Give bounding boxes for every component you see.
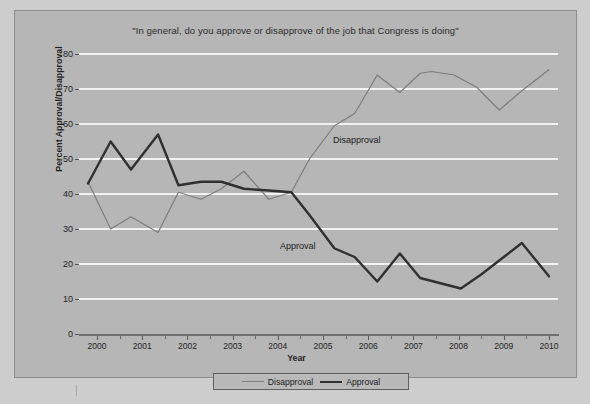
x-tick-mark-minor bbox=[436, 336, 437, 339]
x-tick-mark-minor bbox=[391, 336, 392, 339]
plot-lines bbox=[79, 54, 558, 334]
x-tick-mark-minor bbox=[255, 336, 256, 339]
x-tick-label: 2005 bbox=[306, 342, 340, 351]
legend-entry-disapproval[interactable]: Disapproval bbox=[242, 377, 313, 387]
series-annotation-approval: Approval bbox=[280, 241, 316, 251]
x-tick-mark bbox=[413, 336, 414, 340]
x-tick-label: 2008 bbox=[442, 342, 476, 351]
screenshot-root: "In general, do you approve or disapprov… bbox=[0, 0, 590, 404]
x-tick-mark bbox=[97, 336, 98, 340]
x-tick-mark-minor bbox=[346, 336, 347, 339]
series-line-approval bbox=[88, 135, 549, 289]
x-tick-mark bbox=[187, 336, 188, 340]
x-tick-mark bbox=[504, 336, 505, 340]
y-tick-label: 40 bbox=[51, 190, 73, 199]
x-tick-mark-minor bbox=[526, 336, 527, 339]
x-axis-title: Year bbox=[15, 353, 578, 363]
x-tick-label: 2002 bbox=[170, 342, 204, 351]
y-tick-label: 70 bbox=[51, 85, 73, 94]
y-tick-label: 60 bbox=[51, 120, 73, 129]
x-tick-mark bbox=[323, 336, 324, 340]
x-tick-mark bbox=[459, 336, 460, 340]
x-tick-label: 2007 bbox=[396, 342, 430, 351]
y-tick-label: 20 bbox=[51, 260, 73, 269]
series-paths bbox=[88, 70, 549, 289]
x-tick-mark-minor bbox=[165, 336, 166, 339]
chart-panel: "In general, do you approve or disapprov… bbox=[14, 10, 577, 378]
x-tick-mark-minor bbox=[300, 336, 301, 339]
x-axis-line bbox=[79, 334, 559, 336]
legend-line-icon-disapproval bbox=[242, 381, 264, 382]
x-tick-mark-minor bbox=[481, 336, 482, 339]
y-tick-label: 0 bbox=[51, 330, 73, 339]
series-annotation-disapproval: Disapproval bbox=[333, 135, 381, 145]
legend-entry-approval[interactable]: Approval bbox=[320, 377, 380, 387]
y-tick-mark bbox=[75, 334, 79, 335]
x-tick-label: 2001 bbox=[125, 342, 159, 351]
y-axis-title: Percent Approval/Disapproval bbox=[54, 19, 64, 199]
x-tick-label: 2003 bbox=[216, 342, 250, 351]
x-tick-mark-minor bbox=[210, 336, 211, 339]
x-tick-label: 2000 bbox=[80, 342, 114, 351]
x-tick-mark bbox=[549, 336, 550, 340]
x-tick-label: 2009 bbox=[487, 342, 521, 351]
legend-label-disapproval: Disapproval bbox=[268, 377, 313, 387]
x-tick-mark bbox=[278, 336, 279, 340]
x-tick-mark bbox=[233, 336, 234, 340]
x-tick-label: 2010 bbox=[532, 342, 566, 351]
y-tick-label: 30 bbox=[51, 225, 73, 234]
gridlines bbox=[79, 54, 558, 299]
legend-line-icon-approval bbox=[320, 381, 342, 383]
y-tick-label: 50 bbox=[51, 155, 73, 164]
x-tick-label: 2004 bbox=[261, 342, 295, 351]
x-tick-label: 2006 bbox=[351, 342, 385, 351]
chart-legend: Disapproval Approval bbox=[213, 373, 409, 390]
plot-area bbox=[79, 54, 558, 334]
x-tick-mark-minor bbox=[120, 336, 121, 339]
chart-title: "In general, do you approve or disapprov… bbox=[15, 25, 576, 36]
y-tick-label: 80 bbox=[51, 50, 73, 59]
series-line-disapproval bbox=[88, 70, 549, 233]
scan-artifact bbox=[76, 385, 77, 396]
x-tick-mark bbox=[142, 336, 143, 340]
legend-label-approval: Approval bbox=[346, 377, 380, 387]
y-tick-label: 10 bbox=[51, 295, 73, 304]
x-tick-mark bbox=[368, 336, 369, 340]
